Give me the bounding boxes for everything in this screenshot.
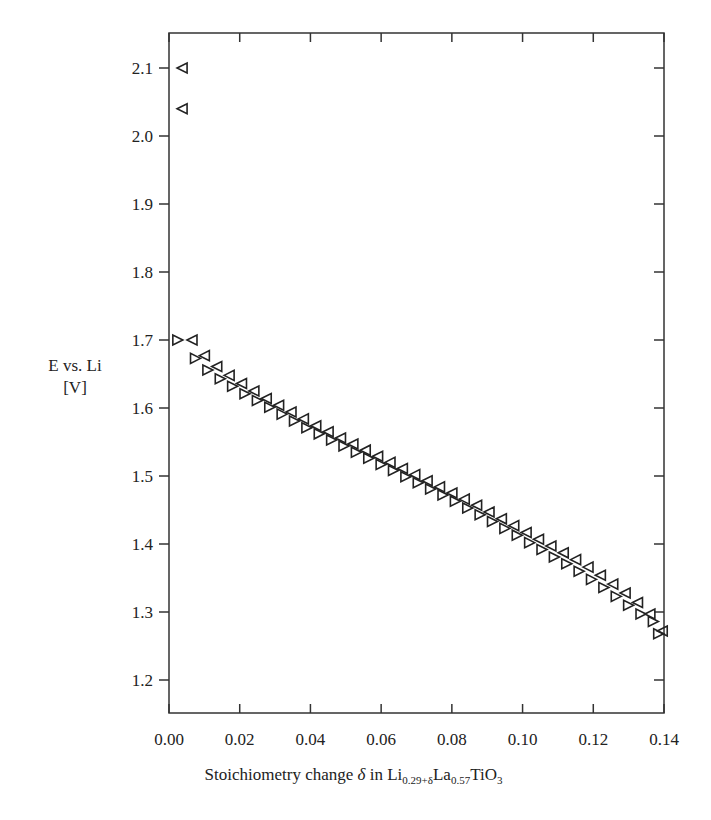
data-point-marker bbox=[636, 609, 646, 619]
data-point-marker bbox=[472, 500, 482, 510]
data-point-marker bbox=[277, 409, 287, 419]
x-axis-label-li: in Li bbox=[365, 765, 402, 784]
data-point-marker bbox=[187, 335, 197, 345]
y-tick-label: 1.3 bbox=[132, 603, 153, 622]
data-point-marker bbox=[177, 104, 187, 114]
data-point-marker bbox=[191, 353, 201, 363]
data-point-marker bbox=[290, 416, 300, 426]
data-point-marker bbox=[475, 510, 485, 520]
data-point-marker bbox=[632, 597, 642, 607]
y-tick-label: 1.4 bbox=[132, 535, 154, 554]
data-point-marker bbox=[274, 400, 284, 410]
data-point-marker bbox=[500, 523, 510, 533]
data-point-marker bbox=[488, 517, 498, 527]
y-axis-label: E vs. Li [V] bbox=[20, 355, 130, 399]
x-axis-label-la: La bbox=[433, 765, 451, 784]
y-tick-label: 1.6 bbox=[132, 399, 153, 418]
data-point-marker bbox=[177, 63, 187, 73]
y-axis-label-line-2: [V] bbox=[20, 377, 130, 399]
y-tick-label: 1.7 bbox=[132, 331, 154, 350]
data-point-marker bbox=[496, 514, 506, 524]
data-point-marker bbox=[249, 386, 259, 396]
x-tick-label: 0.02 bbox=[225, 730, 255, 749]
x-axis-label-text: Stoichiometry change bbox=[205, 765, 358, 784]
data-point-marker bbox=[624, 600, 634, 610]
data-point-marker bbox=[199, 351, 209, 361]
x-tick-label: 0.06 bbox=[366, 730, 396, 749]
data-point-marker bbox=[302, 423, 312, 433]
data-point-marker bbox=[286, 407, 296, 417]
data-point-marker bbox=[509, 521, 519, 531]
data-point-marker bbox=[240, 389, 250, 399]
plot-frame bbox=[169, 33, 664, 713]
data-point-marker bbox=[484, 507, 494, 517]
y-tick-label: 2.1 bbox=[132, 59, 153, 78]
x-tick-label: 0.04 bbox=[296, 730, 326, 749]
plot-axes: 0.000.020.040.060.080.100.120.141.21.31.… bbox=[132, 33, 680, 749]
y-axis-label-line-1: E vs. Li bbox=[20, 355, 130, 377]
x-axis-label-sub-la: 0.57 bbox=[451, 774, 470, 786]
chart-canvas: 0.000.020.040.060.080.100.120.141.21.31.… bbox=[0, 0, 711, 820]
data-point-marker bbox=[463, 503, 473, 513]
data-point-marker bbox=[252, 396, 262, 406]
y-tick-label: 1.9 bbox=[132, 195, 153, 214]
data-point-marker bbox=[228, 381, 238, 391]
data-point-marker bbox=[265, 402, 275, 412]
x-axis-label-sub-o: 3 bbox=[497, 774, 503, 786]
data-point-marker bbox=[512, 530, 522, 540]
data-point-marker bbox=[261, 393, 271, 403]
x-tick-label: 0.12 bbox=[578, 730, 608, 749]
x-axis-label-tio: TiO bbox=[470, 765, 497, 784]
x-tick-label: 0.14 bbox=[649, 730, 679, 749]
y-tick-label: 1.2 bbox=[132, 671, 153, 690]
x-tick-label: 0.10 bbox=[508, 730, 538, 749]
data-point-marker bbox=[236, 379, 246, 389]
data-point-marker bbox=[298, 414, 308, 424]
x-tick-label: 0.08 bbox=[437, 730, 467, 749]
y-tick-label: 1.8 bbox=[132, 263, 153, 282]
data-point-marker bbox=[459, 494, 469, 504]
x-axis-label-sub-li: 0.29+δ bbox=[402, 774, 433, 786]
series-left-triangle bbox=[177, 63, 667, 636]
y-tick-label: 2.0 bbox=[132, 127, 153, 146]
data-point-marker bbox=[521, 527, 531, 537]
x-tick-label: 0.00 bbox=[154, 730, 184, 749]
y-tick-label: 1.5 bbox=[132, 467, 153, 486]
data-point-marker bbox=[173, 335, 183, 345]
x-axis-label: Stoichiometry change δ in Li0.29+δLa0.57… bbox=[0, 765, 711, 786]
data-points bbox=[173, 63, 667, 639]
